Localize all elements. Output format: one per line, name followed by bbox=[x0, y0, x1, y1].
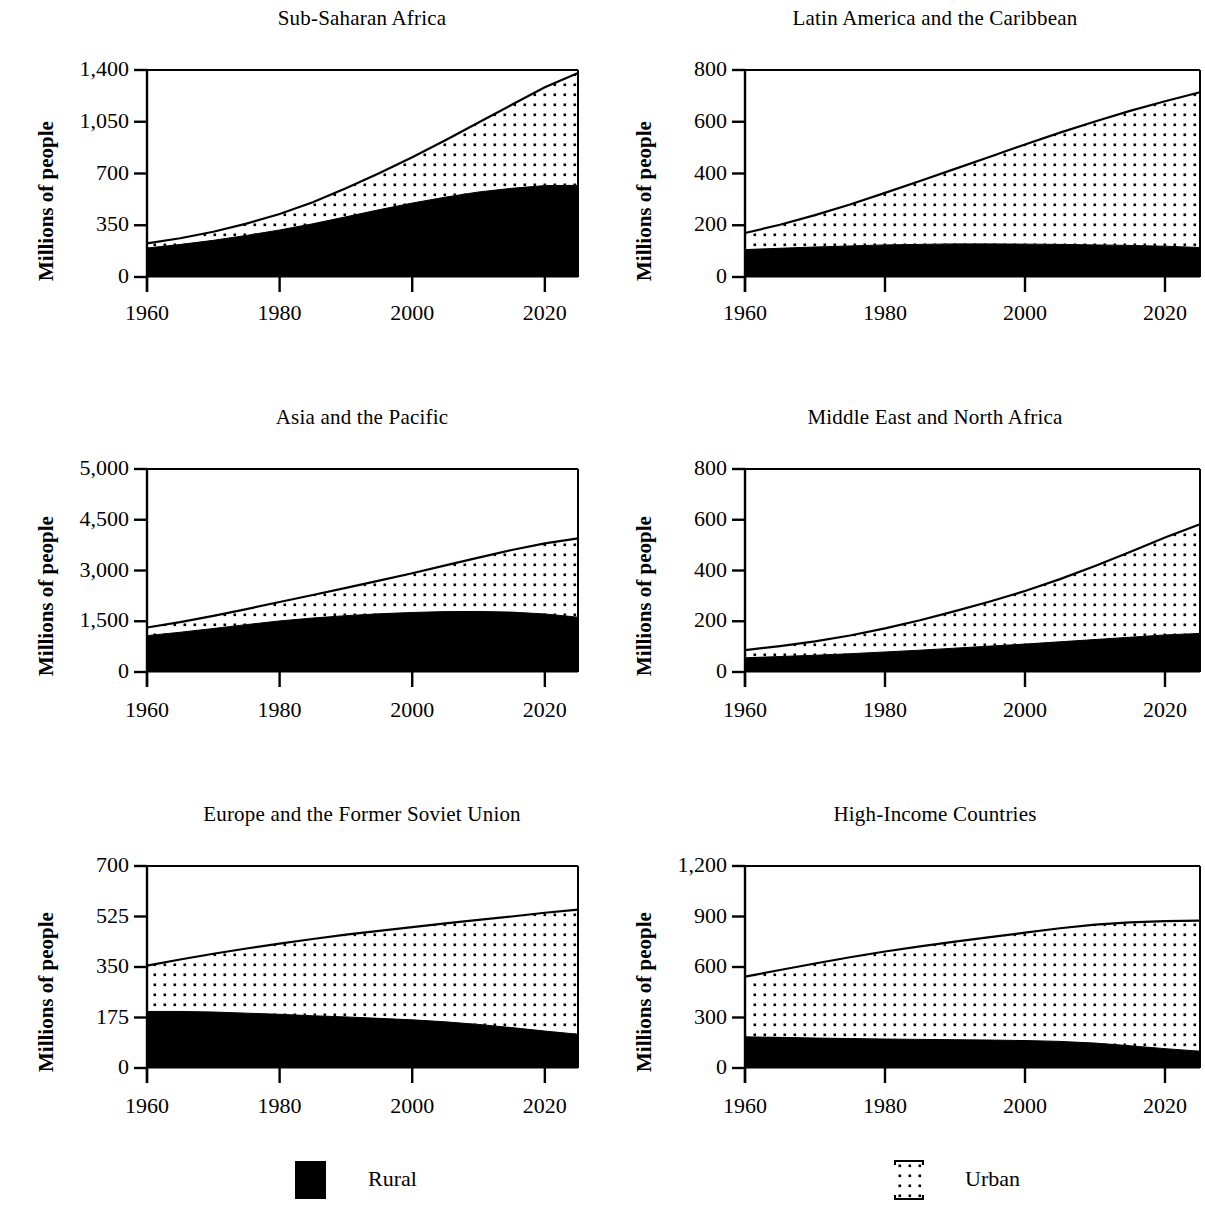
y-tick-label: 700 bbox=[0, 852, 129, 878]
y-axis-label: Millions of people bbox=[632, 912, 657, 1072]
y-tick-label: 200 bbox=[595, 211, 727, 237]
x-tick-label: 1980 bbox=[825, 697, 945, 723]
urban-area bbox=[745, 524, 1200, 657]
y-tick-label: 0 bbox=[595, 1054, 727, 1080]
y-tick-label: 5,000 bbox=[0, 455, 129, 481]
y-tick-label: 3,000 bbox=[0, 557, 129, 583]
x-tick-label: 2020 bbox=[485, 300, 605, 326]
y-axis-label: Millions of people bbox=[632, 121, 657, 281]
y-tick-label: 600 bbox=[595, 506, 727, 532]
x-tick-label: 1980 bbox=[825, 1093, 945, 1119]
y-axis-label: Millions of people bbox=[34, 121, 59, 281]
panel-title: Europe and the Former Soviet Union bbox=[62, 802, 662, 827]
y-tick-label: 600 bbox=[595, 953, 727, 979]
total-population-line bbox=[745, 92, 1200, 233]
x-tick-label: 2000 bbox=[965, 697, 1085, 723]
y-tick-label: 1,200 bbox=[595, 852, 727, 878]
y-tick-label: 200 bbox=[595, 607, 727, 633]
x-tick-label: 2000 bbox=[965, 300, 1085, 326]
total-population-line bbox=[745, 524, 1200, 650]
panel-title: Latin America and the Caribbean bbox=[635, 6, 1205, 31]
rural-area bbox=[745, 1037, 1200, 1068]
legend-urban-label: Urban bbox=[965, 1166, 1020, 1192]
x-tick-label: 2020 bbox=[1105, 697, 1205, 723]
y-tick-label: 800 bbox=[595, 455, 727, 481]
x-tick-label: 1960 bbox=[685, 697, 805, 723]
x-tick-label: 2000 bbox=[352, 697, 472, 723]
x-tick-label: 1960 bbox=[685, 300, 805, 326]
y-axis-label: Millions of people bbox=[632, 516, 657, 676]
y-tick-label: 400 bbox=[595, 160, 727, 186]
rural-area bbox=[147, 1011, 578, 1068]
y-tick-label: 0 bbox=[0, 1054, 129, 1080]
y-axis-label: Millions of people bbox=[34, 516, 59, 676]
total-population-line bbox=[147, 910, 578, 966]
y-tick-label: 350 bbox=[0, 953, 129, 979]
y-tick-label: 900 bbox=[595, 903, 727, 929]
urban-area bbox=[745, 92, 1200, 249]
x-tick-label: 2000 bbox=[965, 1093, 1085, 1119]
y-tick-label: 0 bbox=[595, 263, 727, 289]
urban-area bbox=[147, 73, 578, 248]
rural-area bbox=[745, 244, 1200, 277]
urban-area bbox=[745, 921, 1200, 1051]
legend-urban-swatch bbox=[895, 1161, 923, 1199]
panel-title: Sub-Saharan Africa bbox=[62, 6, 662, 31]
y-tick-label: 1,500 bbox=[0, 607, 129, 633]
y-tick-label: 1,050 bbox=[0, 108, 129, 134]
y-tick-label: 175 bbox=[0, 1004, 129, 1030]
x-tick-label: 1960 bbox=[87, 1093, 207, 1119]
x-tick-label: 1980 bbox=[825, 300, 945, 326]
y-tick-label: 0 bbox=[0, 658, 129, 684]
y-tick-label: 800 bbox=[595, 56, 727, 82]
x-tick-label: 1980 bbox=[220, 697, 340, 723]
y-tick-label: 350 bbox=[0, 211, 129, 237]
x-tick-label: 1960 bbox=[87, 300, 207, 326]
total-population-line bbox=[147, 538, 578, 627]
y-tick-label: 525 bbox=[0, 903, 129, 929]
rural-area bbox=[147, 185, 578, 277]
panel-title: Middle East and North Africa bbox=[635, 405, 1205, 430]
y-tick-label: 0 bbox=[595, 658, 727, 684]
y-axis-label: Millions of people bbox=[34, 912, 59, 1072]
rural-area bbox=[147, 611, 578, 672]
urban-area bbox=[147, 910, 578, 1035]
rural-area bbox=[745, 633, 1200, 672]
x-tick-label: 2000 bbox=[352, 300, 472, 326]
x-tick-label: 2020 bbox=[485, 1093, 605, 1119]
x-tick-label: 1960 bbox=[87, 697, 207, 723]
total-population-line bbox=[745, 921, 1200, 977]
x-tick-label: 1980 bbox=[220, 1093, 340, 1119]
legend-rural-swatch bbox=[295, 1161, 326, 1199]
x-tick-label: 2020 bbox=[1105, 300, 1205, 326]
urban-area bbox=[147, 538, 578, 635]
y-tick-label: 700 bbox=[0, 160, 129, 186]
y-tick-label: 300 bbox=[595, 1004, 727, 1030]
panel-title: Asia and the Pacific bbox=[62, 405, 662, 430]
y-tick-label: 1,400 bbox=[0, 56, 129, 82]
y-tick-label: 600 bbox=[595, 108, 727, 134]
y-tick-label: 4,500 bbox=[0, 506, 129, 532]
y-tick-label: 0 bbox=[0, 263, 129, 289]
legend-rural-label: Rural bbox=[368, 1166, 417, 1192]
panel-title: High-Income Countries bbox=[635, 802, 1205, 827]
x-tick-label: 2020 bbox=[485, 697, 605, 723]
x-tick-label: 1980 bbox=[220, 300, 340, 326]
x-tick-label: 2000 bbox=[352, 1093, 472, 1119]
x-tick-label: 2020 bbox=[1105, 1093, 1205, 1119]
x-tick-label: 1960 bbox=[685, 1093, 805, 1119]
y-tick-label: 400 bbox=[595, 557, 727, 583]
total-population-line bbox=[147, 73, 578, 243]
